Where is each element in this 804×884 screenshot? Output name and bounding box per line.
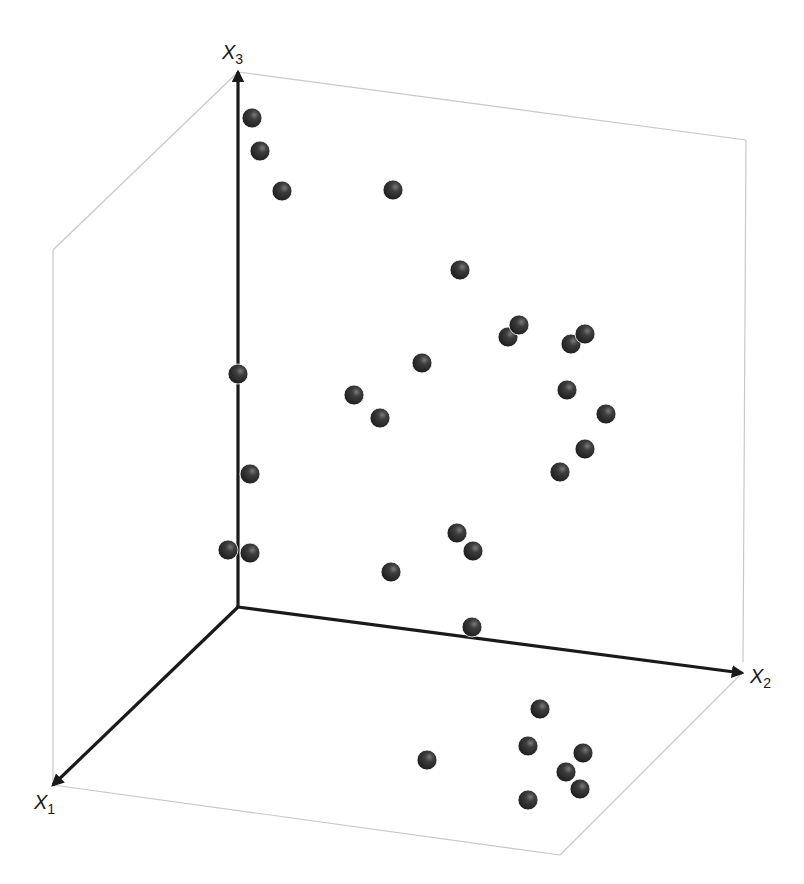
x3-label-sub: 3 <box>235 51 243 67</box>
data-point-sphere <box>556 762 576 782</box>
data-point-sphere <box>596 404 616 424</box>
data-point-sphere <box>242 108 262 128</box>
data-point-sphere <box>550 462 570 482</box>
x3-label-main: X <box>222 41 235 63</box>
data-point-sphere <box>575 439 595 459</box>
x3-axis-label: X3 <box>222 42 243 66</box>
data-point-sphere <box>218 540 238 560</box>
data-point-sphere <box>344 385 364 405</box>
box-edge <box>53 785 560 855</box>
x1-label-sub: 1 <box>47 801 55 817</box>
box-edge <box>560 675 740 855</box>
data-point-sphere <box>450 260 470 280</box>
data-point-sphere <box>463 541 483 561</box>
box-edge <box>53 72 238 250</box>
data-point-sphere <box>417 750 437 770</box>
data-point-sphere <box>381 562 401 582</box>
data-point-sphere <box>250 141 270 161</box>
x2-label-main: X <box>750 665 763 687</box>
x2-axis-label: X2 <box>750 666 771 690</box>
data-point-sphere <box>573 743 593 763</box>
data-point-sphere <box>518 736 538 756</box>
data-point-sphere <box>447 523 467 543</box>
x1-axis-label: X1 <box>34 792 55 816</box>
data-point-sphere <box>240 464 260 484</box>
axes <box>53 72 742 785</box>
data-point-sphere <box>462 617 482 637</box>
data-point-sphere <box>370 408 390 428</box>
data-point-sphere <box>272 181 292 201</box>
data-point-sphere <box>557 380 577 400</box>
data-point-sphere <box>228 364 248 384</box>
x1-label-main: X <box>34 791 47 813</box>
data-point-sphere <box>383 180 403 200</box>
data-point-sphere <box>240 543 260 563</box>
x2-axis-arrow <box>238 607 742 673</box>
data-point-sphere <box>530 699 550 719</box>
data-point-sphere <box>412 353 432 373</box>
x2-label-sub: 2 <box>763 675 771 691</box>
box-edge <box>743 140 746 662</box>
x1-axis-arrow <box>53 607 238 785</box>
data-point-sphere <box>509 315 529 335</box>
3d-scatter-plot <box>0 0 804 884</box>
data-point-sphere <box>518 790 538 810</box>
box-edge <box>238 72 746 140</box>
data-points <box>218 108 616 810</box>
data-point-sphere <box>575 324 595 344</box>
data-point-sphere <box>570 779 590 799</box>
